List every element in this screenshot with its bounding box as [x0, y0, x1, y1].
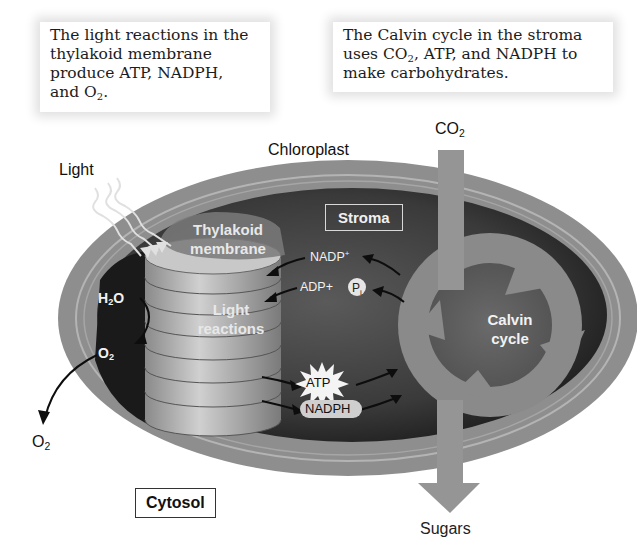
sugars-output-arrowhead — [418, 483, 480, 513]
adp-plus-label: ADP+ — [300, 280, 333, 294]
co2-text: CO — [435, 120, 459, 137]
label-line: cycle — [470, 329, 550, 348]
label-line: membrane — [168, 239, 288, 258]
subscript: 2 — [109, 352, 114, 362]
h2o-label: H2O — [98, 290, 124, 307]
light-reactions-label: Light reactions — [176, 300, 286, 338]
chloroplast-diagram: Pi — [0, 0, 637, 549]
co2-input-arrow — [438, 150, 464, 290]
nadp-text: NADP — [310, 250, 345, 264]
cytosol-label: Cytosol — [135, 488, 216, 518]
label-line: Thylakoid — [168, 220, 288, 239]
label-line: reactions — [176, 319, 286, 338]
o2-text: O — [98, 345, 109, 361]
label-line: Light — [176, 300, 286, 319]
sugars-label: Sugars — [420, 520, 471, 538]
superscript: + — [345, 249, 350, 258]
nadph-label: NADPH — [305, 401, 351, 416]
calvin-cycle-label: Calvin cycle — [470, 310, 550, 348]
o2-text: O — [32, 433, 44, 450]
nadp-plus-label: NADP+ — [310, 249, 349, 264]
h2o-text: H — [98, 290, 108, 306]
subscript: 2 — [44, 441, 50, 452]
thylakoid-membrane-label: Thylakoid membrane — [168, 220, 288, 258]
atp-label: ATP — [306, 375, 330, 390]
subscript: 2 — [459, 128, 465, 139]
o2-released-label: O2 — [32, 433, 50, 452]
chloroplast-label: Chloroplast — [268, 141, 349, 159]
h2o-text: O — [113, 290, 124, 306]
o2-inner-label: O2 — [98, 345, 114, 362]
sugars-output-shaft — [437, 400, 463, 485]
stroma-label: Stroma — [325, 204, 403, 231]
label-line: Calvin — [470, 310, 550, 329]
light-label: Light — [59, 161, 94, 179]
co2-input-label: CO2 — [435, 120, 465, 139]
